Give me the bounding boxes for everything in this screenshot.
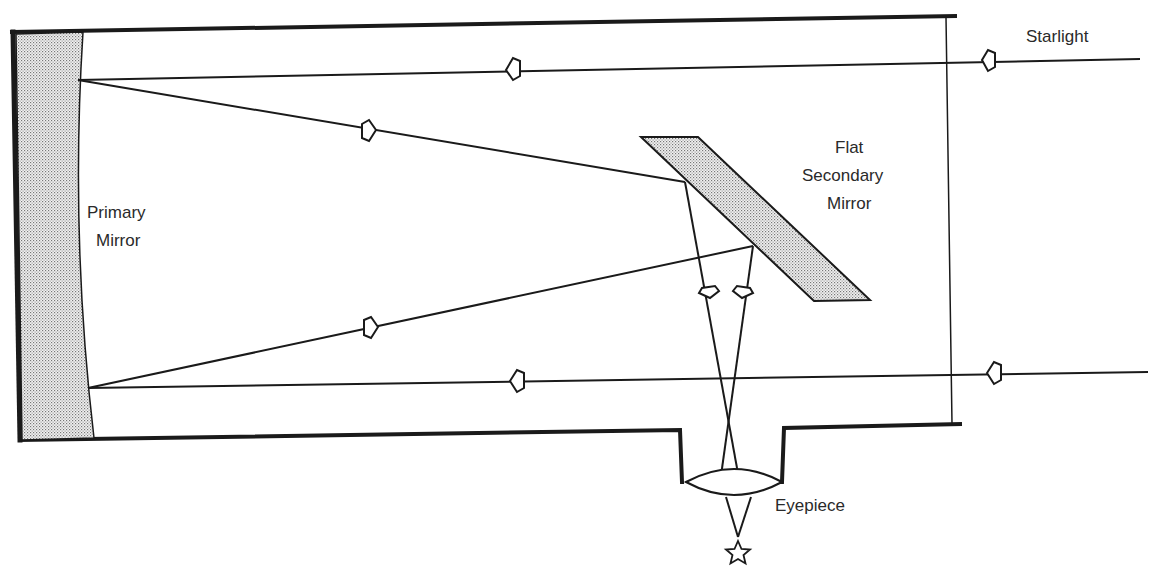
telescope-tube — [12, 16, 960, 482]
primary-mirror-label-line1: Primary — [87, 203, 146, 222]
arrow-left-icon — [510, 370, 524, 392]
arrow-left-icon — [506, 58, 520, 80]
arrow-right-icon — [362, 120, 376, 141]
direction-arrows — [362, 50, 1001, 392]
secondary-mirror-label-line2: Secondary — [802, 166, 884, 185]
light-rays — [78, 59, 1148, 537]
secondary-mirror-label-line1: Flat — [835, 138, 864, 157]
arrow-left-icon — [982, 50, 995, 71]
ray-bottom-reflected — [88, 246, 753, 388]
star-icon — [726, 541, 750, 564]
ray-secondary-left — [685, 182, 741, 490]
secondary-mirror-label-line3: Mirror — [827, 194, 872, 213]
tube-aperture — [946, 17, 952, 424]
tube-bottom-wall — [20, 424, 960, 482]
tube-top-wall — [12, 16, 955, 32]
starlight-label: Starlight — [1026, 27, 1089, 46]
ray-top-reflected — [78, 80, 685, 182]
arrow-left-icon — [987, 362, 1001, 384]
primary-mirror-label-line2: Mirror — [96, 231, 141, 250]
arrow-down-icon — [699, 286, 719, 298]
primary-mirror — [16, 32, 94, 440]
eyepiece-label: Eyepiece — [775, 496, 845, 515]
telescope-diagram: Starlight Primary Mirror Flat Secondary … — [0, 0, 1156, 579]
ray-eyepiece-left — [726, 497, 738, 537]
secondary-mirror — [641, 137, 870, 301]
ray-top-incoming — [78, 59, 1140, 80]
arrow-right-icon — [364, 317, 378, 338]
ray-eyepiece-right — [738, 497, 751, 537]
ray-secondary-right — [719, 246, 753, 490]
arrow-down-icon — [733, 286, 753, 298]
eyepiece-lens — [686, 469, 782, 495]
